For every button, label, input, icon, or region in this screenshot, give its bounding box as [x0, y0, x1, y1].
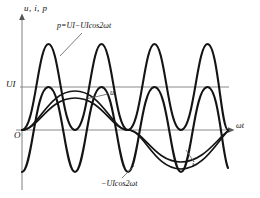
power-waveform-figure: u, i, p UI O ωt p=UI−UIcos2ωt u i −UIcos…	[0, 0, 260, 198]
x-axis-label: ωt	[236, 122, 244, 130]
leader-power	[60, 33, 82, 56]
waveform-plot	[0, 0, 260, 198]
neg-cos-annotation: −UIcos2ωt	[101, 180, 137, 188]
y-axis-label: u, i, p	[24, 4, 47, 13]
power-annotation: p=UI−UIcos2ωt	[57, 22, 111, 30]
ui-level-label: UI	[6, 80, 16, 89]
current-annotation: i	[192, 161, 194, 169]
origin-label: O	[14, 131, 21, 140]
voltage-annotation: u	[110, 89, 114, 97]
